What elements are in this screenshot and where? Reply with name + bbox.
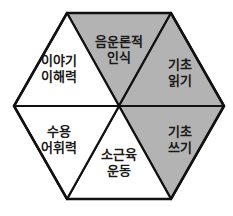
label-upper-left-line1: 이야기 — [41, 53, 77, 68]
label-lower-right: 기초 쓰기 — [168, 124, 192, 155]
label-top-line1: 음운론적 — [95, 34, 143, 49]
label-bottom-line1: 소근육 — [101, 147, 137, 162]
label-lower-right-line2: 쓰기 — [168, 140, 192, 155]
label-upper-left-line2: 이해력 — [41, 69, 77, 84]
label-lower-right-line1: 기초 — [168, 124, 192, 139]
label-upper-right: 기초 읽기 — [168, 57, 192, 88]
label-top-line2: 인식 — [107, 50, 131, 65]
label-bottom-line2: 운동 — [107, 163, 131, 178]
label-lower-left-line2: 어휘력 — [41, 140, 77, 155]
label-upper-right-line2: 읽기 — [168, 73, 192, 88]
label-lower-left-line1: 수용 — [47, 124, 71, 139]
label-upper-left: 이야기 이해력 — [41, 53, 77, 84]
hexagon-diagram: 음운론적 인식 기초 읽기 기초 쓰기 소근육 운동 수용 어휘력 이야기 이해… — [0, 0, 233, 216]
label-upper-right-line1: 기초 — [168, 57, 192, 72]
